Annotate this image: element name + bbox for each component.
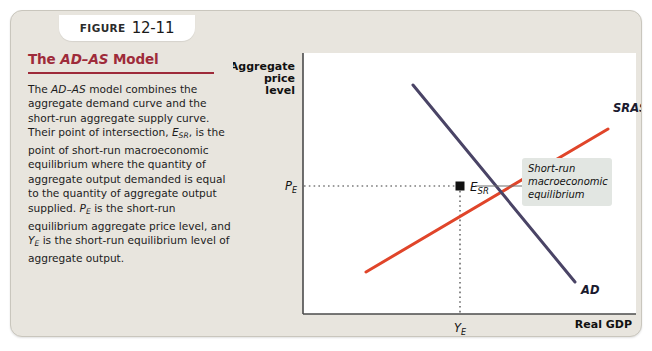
annotation-line-2: macroeconomic [528, 176, 608, 187]
caption-body-text: The AD–AS model combines the aggregate d… [28, 82, 233, 266]
chart-area: Aggregate price level Real GDP SRAS AD E… [233, 37, 642, 337]
caption-column: The AD–AS Model The AD–AS model combines… [28, 51, 233, 266]
sras-curve-label: SRAS [613, 101, 642, 115]
title-divider [28, 72, 214, 74]
ad-curve-label: AD [580, 283, 600, 297]
annotation-line-1: Short-run [528, 163, 575, 174]
figure-card: Figure 12-11 The AD–AS Model The AD–AS m… [10, 10, 642, 337]
x-tick-label-output: YE [454, 321, 467, 337]
ad-as-chart: Aggregate price level Real GDP SRAS AD E… [233, 37, 642, 337]
figure-title-suffix: Model [108, 51, 158, 67]
figure-title: The AD–AS Model [28, 51, 233, 67]
figure-title-italic: AD–AS [60, 51, 108, 67]
figure-number-pill: Figure 12-11 [59, 15, 195, 41]
annotation-line-3: equilibrium [528, 189, 585, 200]
figure-label-word: Figure [80, 22, 126, 34]
equilibrium-point-marker [456, 182, 465, 191]
figure-title-prefix: The [28, 51, 60, 67]
y-axis-title-line-3: level [265, 84, 295, 97]
figure-number: 12-11 [132, 19, 175, 37]
y-tick-label-price: PE [285, 179, 298, 195]
x-axis-title: Real GDP [575, 318, 632, 331]
